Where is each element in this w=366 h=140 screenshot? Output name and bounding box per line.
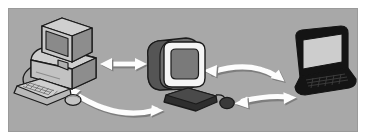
aio-mouse	[220, 97, 234, 108]
laptop-computer	[295, 26, 356, 95]
desktop-mouse	[65, 95, 81, 106]
aio-screen	[171, 49, 199, 79]
illustration-container: Networked computers connected by bidirec…	[0, 0, 366, 140]
computer-network-illustration: Networked computers connected by bidirec…	[0, 0, 366, 140]
